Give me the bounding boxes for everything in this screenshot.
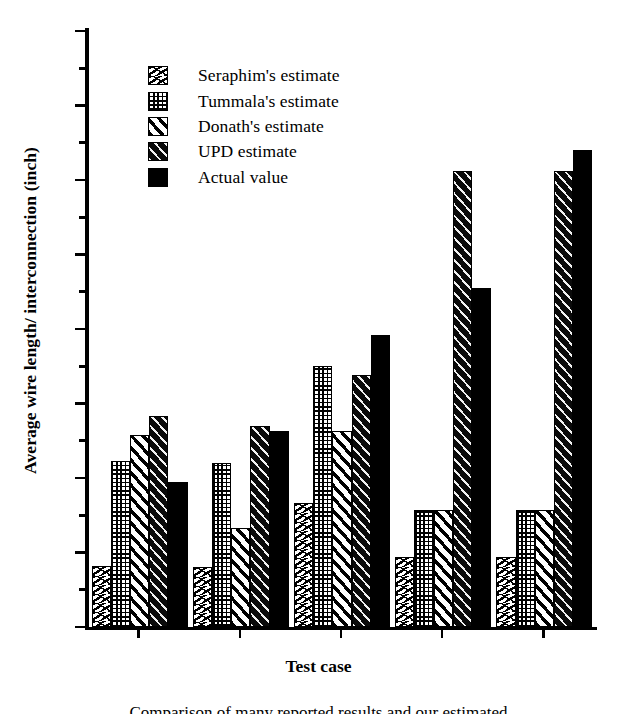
bar [554, 171, 573, 627]
legend-label: Donath's estimate [198, 116, 324, 137]
bar [92, 566, 111, 627]
legend-swatch-icon [148, 66, 168, 85]
bar [535, 510, 554, 627]
legend-item: UPD estimate [148, 139, 340, 164]
bar [414, 510, 433, 627]
bar [149, 416, 168, 627]
bar [313, 366, 332, 627]
y-tick-major [75, 626, 86, 629]
legend-item: Seraphim's estimate [148, 63, 340, 88]
x-axis-title: Test case [0, 656, 637, 677]
y-tick-minor [79, 67, 86, 70]
legend-label: UPD estimate [198, 141, 297, 162]
bar [231, 528, 250, 627]
legend-label: Actual value [198, 167, 288, 188]
y-tick-minor [79, 514, 86, 517]
y-axis-title: Average wire length/ interconnection (in… [20, 76, 41, 546]
y-tick-minor [79, 290, 86, 293]
legend-swatch-icon [148, 92, 168, 111]
y-tick-minor [79, 588, 86, 591]
legend-label: Seraphim's estimate [198, 65, 340, 86]
legend-swatch-icon [148, 168, 168, 187]
bar [168, 482, 187, 627]
legend-item: Tummala's estimate [148, 88, 340, 113]
bar [395, 557, 414, 627]
y-tick-minor [79, 216, 86, 219]
y-tick-major [75, 551, 86, 554]
y-tick-major [75, 104, 86, 107]
y-tick-major [75, 328, 86, 331]
y-tick-major [75, 179, 86, 182]
y-tick-major [75, 253, 86, 256]
bar [453, 171, 472, 627]
bar [130, 435, 149, 627]
bar [352, 375, 371, 627]
legend-swatch-icon [148, 117, 168, 136]
y-tick-major [75, 402, 86, 405]
bar [434, 510, 453, 627]
bar [212, 463, 231, 627]
bar [294, 503, 313, 627]
y-tick-major [75, 477, 86, 480]
y-tick-minor [79, 365, 86, 368]
legend-swatch-icon [148, 142, 168, 161]
bar [496, 557, 515, 627]
figure-caption: Comparison of many reported results and … [0, 703, 637, 714]
y-tick-minor [79, 439, 86, 442]
bar [193, 567, 212, 627]
bar [573, 150, 592, 627]
bar [111, 461, 130, 627]
bar [371, 335, 390, 627]
y-tick-major [75, 30, 86, 33]
bar [250, 426, 269, 627]
bar [516, 510, 535, 627]
bar-chart: Average wire length/ interconnection (in… [0, 0, 637, 714]
bar [472, 288, 491, 627]
legend-item: Actual value [148, 165, 340, 190]
chart-legend: Seraphim's estimateTummala's estimateDon… [148, 63, 340, 190]
bar [270, 431, 289, 627]
legend-label: Tummala's estimate [198, 91, 339, 112]
bar [332, 431, 351, 627]
legend-item: Donath's estimate [148, 114, 340, 139]
y-tick-minor [79, 141, 86, 144]
